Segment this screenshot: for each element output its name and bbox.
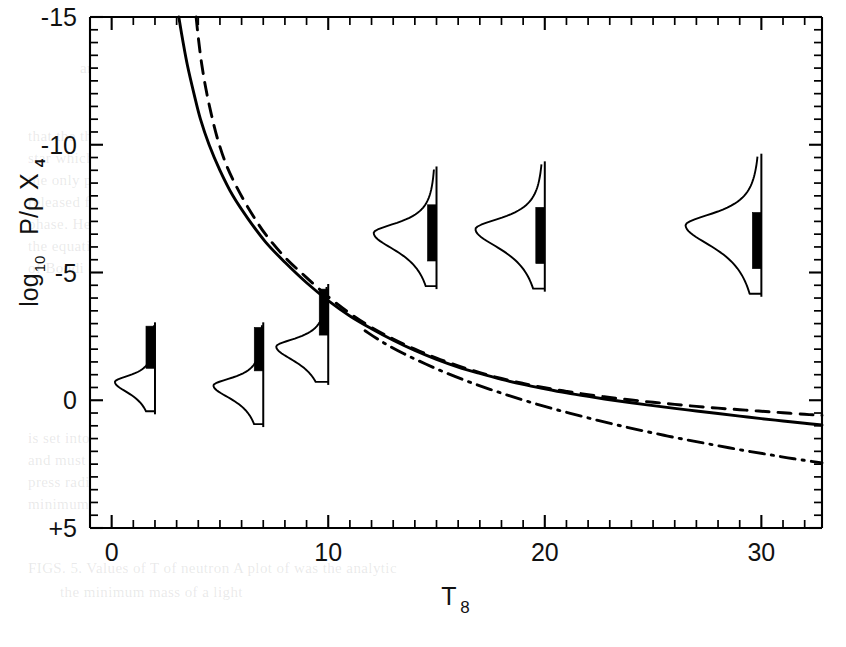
x-tick-label: 0 — [105, 538, 119, 566]
y-axis-label-main-subscript: 4 — [31, 158, 48, 167]
y-tick-label: 0 — [63, 386, 77, 414]
y-tick-label: +5 — [48, 514, 77, 542]
figure-page: and the annihilation of theapproximation… — [0, 0, 846, 647]
y-axis-label-main: P/ρ X — [15, 173, 43, 235]
y-axis-label-prefix-subscript: 10 — [31, 256, 48, 273]
x-axis-label: T 8 — [441, 582, 469, 617]
inset-range-bar — [536, 207, 545, 263]
plot-background — [90, 17, 822, 528]
x-axis-label-subscript: 8 — [460, 598, 469, 617]
y-axis-label-prefix: log — [15, 273, 43, 306]
x-tick-label: 30 — [747, 538, 775, 566]
y-tick-label: -10 — [41, 131, 77, 159]
x-tick-labels: 0102030 — [105, 538, 776, 566]
inset-range-bar — [752, 212, 761, 268]
inset-range-bar — [428, 205, 437, 261]
x-axis-label-base: T — [441, 582, 456, 610]
chart-figure: 0102030 -15-10-50+5 T 8 log 10 P/ρ X 4 — [0, 0, 846, 647]
x-tick-label: 20 — [531, 538, 559, 566]
x-tick-label: 10 — [314, 538, 342, 566]
y-tick-label: -15 — [41, 3, 77, 31]
y-tick-label: -5 — [55, 259, 77, 287]
y-axis-label: log 10 P/ρ X 4 — [15, 158, 48, 307]
